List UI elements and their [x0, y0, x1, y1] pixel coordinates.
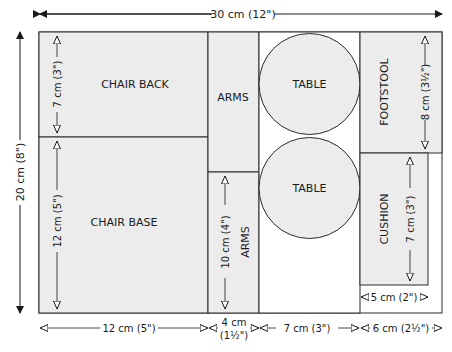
footstool-dimension: 8 cm (3½") — [420, 64, 431, 121]
arms-top-label: ARMS — [217, 91, 249, 104]
dim-arms-width-cm: 4 cm — [222, 317, 247, 328]
piece-table-bottom: TABLE — [259, 138, 360, 239]
cushion-label: CUSHION — [378, 193, 391, 244]
dim-arms-width-in: (1½") — [220, 330, 249, 341]
cushion-dimension: 7 cm (3") — [405, 196, 416, 243]
dim-table-width: 7 cm (3") — [284, 323, 331, 334]
bottom-dimensions: 12 cm (5") 4 cm (1½") 7 cm (3") 6 cm (2½… — [40, 317, 442, 341]
overall-height-dimension: 20 cm (8") — [14, 32, 27, 313]
overall-height-label: 20 cm (8") — [14, 143, 27, 201]
overall-width-label: 30 cm (12") — [210, 8, 275, 21]
piece-cushion: CUSHION 7 cm (3") 5 cm (2") — [360, 153, 428, 303]
arms-bottom-label: ARMS — [239, 226, 252, 258]
chair-base-label: CHAIR BASE — [91, 216, 158, 229]
chair-back-label: CHAIR BACK — [101, 78, 169, 91]
piece-table-top: TABLE — [259, 34, 360, 135]
table-bottom-label: TABLE — [291, 182, 326, 195]
arms-bottom-dimension: 10 cm (4") — [220, 215, 231, 268]
piece-arms-bottom: 10 cm (4") ARMS — [208, 172, 259, 313]
footstool-label: FOOTSTOOL — [378, 57, 391, 125]
chair-back-dimension: 7 cm (3") — [52, 61, 63, 108]
overall-width-dimension: 30 cm (12") — [40, 8, 442, 21]
piece-chair-back: CHAIR BACK 7 cm (3") — [39, 32, 208, 137]
dim-right-width: 6 cm (2½") — [373, 323, 430, 334]
dim-chair-width: 12 cm (5") — [102, 323, 155, 334]
piece-arms-top: ARMS — [208, 32, 259, 172]
piece-footstool: FOOTSTOOL 8 cm (3½") — [360, 32, 442, 153]
chair-base-dimension: 12 cm (5") — [52, 194, 63, 247]
table-top-label: TABLE — [291, 78, 326, 91]
cutting-layout-diagram: 30 cm (12") 20 cm (8") CHAIR BACK 7 cm (… — [0, 0, 452, 352]
piece-chair-base: CHAIR BASE 12 cm (5") — [39, 137, 208, 313]
cushion-width-dimension: 5 cm (2") — [371, 292, 418, 303]
